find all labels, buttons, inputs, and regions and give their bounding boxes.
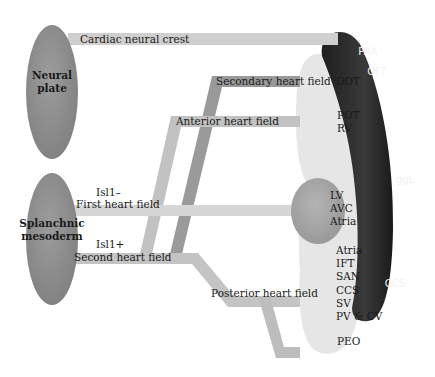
region-pot: POT bbox=[337, 109, 360, 121]
region-san: SAN bbox=[336, 270, 360, 282]
neural-plate-label-1: Neural bbox=[32, 69, 72, 81]
region-dot: DOT bbox=[336, 75, 360, 87]
splanchnic-label-1: Splanchnic bbox=[19, 217, 84, 229]
region-atria-first: Atria bbox=[329, 215, 356, 227]
region-lv: LV bbox=[330, 189, 344, 201]
label-isl1-minus: Isl1– bbox=[96, 186, 121, 198]
region-avc: AVC bbox=[329, 202, 353, 214]
label-posterior-heart-field: Posterior heart field bbox=[211, 287, 318, 299]
label-anterior-heart-field: Anterior heart field bbox=[175, 115, 279, 127]
label-cardiac-neural-crest: Cardiac neural crest bbox=[80, 33, 190, 45]
region-sv: SV bbox=[336, 297, 351, 309]
label-isl1-plus: Isl1+ bbox=[96, 238, 124, 250]
region-rv: RV bbox=[337, 122, 353, 134]
cardiac-lineage-diagram: Neural plate Splanchnic mesoderm Cardiac… bbox=[0, 0, 435, 377]
band-secondary-heart-field bbox=[170, 76, 300, 254]
label-secondary-heart-field: Secondary heart field bbox=[216, 75, 331, 87]
region-atria-posterior: Atria bbox=[335, 244, 362, 256]
region-pv-cv: PV & CV bbox=[336, 310, 383, 322]
region-peo: PEO bbox=[337, 335, 361, 347]
arc-label-paa: PAA bbox=[358, 46, 378, 57]
label-first-heart-field: First heart field bbox=[76, 198, 160, 210]
neural-plate-label-2: plate bbox=[37, 82, 67, 94]
label-second-heart-field: Second heart field bbox=[74, 251, 172, 263]
region-ift: IFT bbox=[336, 257, 354, 269]
band-anterior-heart-field bbox=[140, 116, 300, 254]
arc-label-ggl: ggL bbox=[396, 174, 415, 185]
arc-label-ccs: CCS bbox=[385, 278, 405, 289]
arc-label-oft: OFT bbox=[367, 66, 387, 77]
splanchnic-label-2: mesoderm bbox=[21, 230, 82, 242]
region-ccs: CCS bbox=[336, 284, 359, 296]
